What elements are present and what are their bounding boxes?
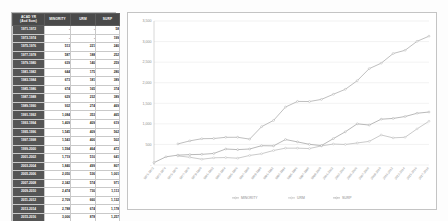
x-axis-tick-label: 1981-1982 xyxy=(202,166,214,180)
table-row[interactable]: 1981-1982644175280 xyxy=(13,68,120,77)
table-row[interactable]: 2015-20163,0068781,257 xyxy=(13,214,120,221)
column-header-surp[interactable]: SURP xyxy=(96,14,120,26)
cell-minority: - xyxy=(45,26,71,35)
cell-surp: 1,178 xyxy=(96,205,120,214)
table-row[interactable]: 2011-20122,7096601,132 xyxy=(13,196,120,205)
table-row[interactable]: 1997-19981,543400502 xyxy=(13,137,120,146)
legend-label-surp[interactable]: SURP xyxy=(342,196,352,200)
table-row[interactable]: 1973-1974--199 xyxy=(13,34,120,43)
series-marker-minority xyxy=(404,49,406,51)
series-marker-urm xyxy=(368,140,370,142)
series-marker-minority xyxy=(225,136,227,138)
cell-surp: 465 xyxy=(96,111,120,120)
x-axis-tick-label: 1999-2000 xyxy=(310,166,322,180)
chart-plot-area: 3,5003,0002,5002,0001,5001,000500-1971-1… xyxy=(128,13,436,209)
series-marker-surp xyxy=(380,118,382,120)
chart-panel: 3,5003,0002,5002,0001,5001,000500-1971-1… xyxy=(127,12,437,210)
y-axis-tick-label: 3,500 xyxy=(143,19,152,23)
cell-minority: 1,545 xyxy=(45,128,71,137)
table-row[interactable]: 1987-1988629232389 xyxy=(13,94,120,103)
cell-urm: 188 xyxy=(71,51,96,60)
legend-label-urm[interactable]: URM xyxy=(297,196,305,200)
cell-minority: 3,006 xyxy=(45,214,71,221)
cell-surp: 619 xyxy=(96,120,120,129)
cell-surp: 252 xyxy=(96,51,120,60)
cell-minority: 673 xyxy=(45,77,71,86)
x-axis-tick-label: 1991-1992 xyxy=(262,166,274,180)
legend-label-minority[interactable]: MINORITY xyxy=(241,196,258,200)
cell-minority: 1,840 xyxy=(45,162,71,171)
table-row[interactable]: 2001-20021,719510641 xyxy=(13,154,120,163)
series-marker-minority xyxy=(416,40,418,42)
series-marker-surp xyxy=(332,138,334,140)
series-marker-minority xyxy=(368,68,370,70)
table-row[interactable]: 2009-20102,4747301,113 xyxy=(13,188,120,197)
series-marker-urm xyxy=(380,134,382,136)
series-marker-surp xyxy=(237,149,239,151)
cell-year: 1971-1972 xyxy=(13,26,45,35)
series-marker-minority xyxy=(177,143,179,145)
cell-surp: 374 xyxy=(96,85,120,94)
cell-year: 1997-1998 xyxy=(13,137,45,146)
column-header-year[interactable]: ACAD YR (Acd Sum) xyxy=(13,14,45,26)
cell-minority: - xyxy=(45,34,71,43)
cell-urm: 165 xyxy=(71,85,96,94)
cell-minority: 2,342 xyxy=(45,179,71,188)
y-axis-tick-label: 1,500 xyxy=(143,102,152,106)
cell-year: 2005-2006 xyxy=(13,171,45,180)
series-line-minority xyxy=(178,36,429,144)
table-row[interactable]: 1999-20001,594464472 xyxy=(13,145,120,154)
cell-minority: 2,050 xyxy=(45,171,71,180)
table-row[interactable]: 2005-20062,0505361,001 xyxy=(13,171,120,180)
series-marker-surp xyxy=(404,116,406,118)
series-marker-urm xyxy=(201,158,203,160)
table-row[interactable]: 1991-19921,084353465 xyxy=(13,111,120,120)
column-header-urm[interactable]: URM xyxy=(71,14,96,26)
x-axis-tick-label: 1983-1984 xyxy=(214,166,226,180)
cell-year: 2009-2010 xyxy=(13,188,45,197)
cell-urm: 536 xyxy=(71,171,96,180)
x-axis-tick-label: 1987-1988 xyxy=(238,166,250,180)
table-row[interactable]: 1983-1984673181389 xyxy=(13,77,120,86)
table-row[interactable]: 1995-19961,545409562 xyxy=(13,128,120,137)
cell-urm: 274 xyxy=(71,102,96,111)
cell-surp: 199 xyxy=(96,34,120,43)
cell-year: 1981-1982 xyxy=(13,68,45,77)
column-header-minority[interactable]: MINORITY xyxy=(45,14,71,26)
cell-minority: 629 xyxy=(45,94,71,103)
table-row[interactable]: 1989-1990932274469 xyxy=(13,102,120,111)
x-axis-tick-label: 1979-1980 xyxy=(190,166,202,180)
cell-urm: 464 xyxy=(71,145,96,154)
table-row[interactable]: 1977-1978587188252 xyxy=(13,51,120,60)
cell-urm: 499 xyxy=(71,162,96,171)
cell-year: 2015-2016 xyxy=(13,214,45,221)
series-marker-surp xyxy=(344,131,346,133)
cell-surp: 1,257 xyxy=(96,214,120,221)
cell-year: 1973-1974 xyxy=(13,34,45,43)
series-marker-surp xyxy=(308,143,310,145)
table-row[interactable]: 2013-20142,7886741,178 xyxy=(13,205,120,214)
table-row[interactable]: 1985-1986674165374 xyxy=(13,85,120,94)
table-row[interactable]: 1971-1972--58 xyxy=(13,26,120,35)
table-row[interactable]: 2007-20082,342574971 xyxy=(13,179,120,188)
series-marker-minority xyxy=(237,136,239,138)
table-row[interactable]: 2003-20041,840499807 xyxy=(13,162,120,171)
series-marker-minority xyxy=(428,35,430,37)
series-marker-surp xyxy=(189,154,191,156)
x-axis-tick-label: 2009-2010 xyxy=(370,166,382,180)
series-marker-surp xyxy=(428,111,430,113)
cell-surp: 1,113 xyxy=(96,188,120,197)
table-row[interactable]: 1975-1976513221240 xyxy=(13,43,120,52)
table-row[interactable]: 1979-1980639140259 xyxy=(13,60,120,69)
series-marker-minority xyxy=(380,62,382,64)
cell-surp: 472 xyxy=(96,145,120,154)
cell-urm: 409 xyxy=(71,128,96,137)
cell-year: 1979-1980 xyxy=(13,60,45,69)
table-row[interactable]: 1993-19941,409409619 xyxy=(13,120,120,129)
cell-minority: 2,474 xyxy=(45,188,71,197)
series-marker-urm xyxy=(273,150,275,152)
cell-surp: 971 xyxy=(96,179,120,188)
cell-year: 2013-2014 xyxy=(13,205,45,214)
enrollment-table: ACAD YR (Acd Sum) MINORITY URM SURP 1971… xyxy=(12,13,120,221)
series-marker-minority xyxy=(297,100,299,102)
